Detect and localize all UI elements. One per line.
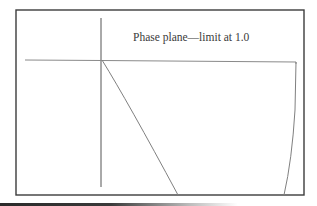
bottom-edge-shadow [0, 203, 317, 206]
figure-title: Phase plane—limit at 1.0 [133, 31, 250, 44]
horizontal-axis [25, 60, 296, 64]
trajectory-curve-left [102, 60, 178, 195]
limit-curve-right [284, 62, 296, 195]
phase-plane-diagram: Phase plane—limit at 1.0 [0, 0, 317, 206]
